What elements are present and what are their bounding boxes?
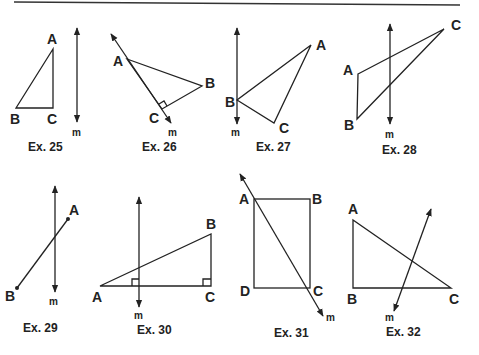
point-c-label: C [449, 291, 459, 307]
point-b-label: B [205, 75, 215, 91]
line-m-label: m [134, 310, 143, 321]
point-b-label: B [10, 111, 20, 127]
top-rule [14, 2, 460, 5]
caption: Ex. 32 [386, 325, 421, 339]
line-m-label: m [72, 127, 81, 138]
line-m-label: m [385, 129, 394, 140]
line-m [394, 209, 431, 311]
right-angle-mark [159, 101, 167, 106]
triangle-abc [237, 45, 311, 123]
point-c-label: C [279, 120, 289, 136]
point-a-label: A [69, 202, 79, 218]
point-b-label: B [312, 191, 322, 207]
point-b-label: B [344, 117, 354, 133]
point-c-label: C [313, 283, 323, 299]
point-b-label: B [5, 288, 15, 304]
exercise-29: A B m Ex. 29 [5, 186, 79, 335]
point-a-label: A [239, 191, 249, 207]
right-angle-mark-c [203, 279, 211, 286]
right-angle-mark-m [132, 279, 139, 286]
caption: Ex. 28 [382, 143, 417, 157]
segment-ab [17, 219, 68, 288]
triangle-abc [100, 234, 211, 286]
line-m-label: m [49, 296, 58, 307]
triangle-abc [16, 49, 53, 108]
exercise-27: A B C m Ex. 27 [225, 28, 326, 154]
point-c-label: C [451, 17, 461, 33]
point-b-label: B [347, 291, 357, 307]
line-m [111, 34, 171, 123]
line-m-label: m [385, 312, 394, 323]
triangle-abc [353, 220, 451, 288]
caption: Ex. 25 [28, 140, 63, 154]
caption: Ex. 26 [142, 140, 177, 154]
line-m-label: m [231, 127, 240, 138]
triangle-abc [357, 29, 444, 119]
point-a-label: A [316, 37, 326, 53]
line-m-label: m [326, 312, 335, 323]
caption: Ex. 29 [23, 321, 58, 335]
exercise-26: A B C m Ex. 26 [111, 34, 215, 154]
exercise-30: B A C m Ex. 30 [92, 197, 216, 337]
exercise-31: A B C D m Ex. 31 [239, 174, 335, 340]
point-b [15, 286, 19, 290]
caption: Ex. 30 [137, 323, 172, 337]
point-a-label: A [92, 289, 102, 305]
caption: Ex. 27 [256, 140, 291, 154]
point-a-label: A [343, 62, 353, 78]
point-a-label: A [47, 31, 57, 47]
point-b-label: B [206, 216, 216, 232]
point-a-label: A [348, 201, 358, 217]
exercise-25: A B C m Ex. 25 [10, 28, 81, 154]
point-a-label: A [113, 53, 123, 69]
exercise-32: A B C m Ex. 32 [347, 201, 459, 339]
point-c-label: C [47, 111, 57, 127]
exercise-28: C A B m Ex. 28 [343, 17, 461, 157]
geometry-exercises-figure: A B C m Ex. 25 A B C m Ex. 26 A B C m Ex… [0, 0, 479, 355]
caption: Ex. 31 [274, 326, 309, 340]
point-c-label: C [149, 110, 159, 126]
line-m-label: m [168, 127, 177, 138]
point-b-label: B [225, 94, 235, 110]
point-c-label: C [205, 289, 215, 305]
point-d-label: D [240, 283, 250, 299]
